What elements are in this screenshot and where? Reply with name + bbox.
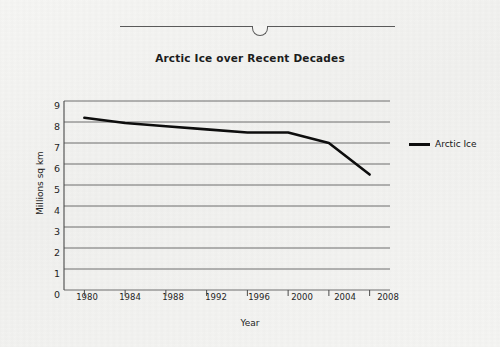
arctic-ice-line-chart: Arctic Ice over Recent Decades Millions …: [0, 0, 500, 347]
chart-legend: Arctic Ice: [409, 139, 477, 149]
plot-area: [0, 0, 500, 347]
x-axis-ticks: [84, 290, 369, 296]
gridlines: [64, 101, 390, 290]
legend-line-swatch: [409, 143, 430, 146]
arctic-ice-data-line: [84, 118, 369, 175]
legend-label: Arctic Ice: [435, 139, 477, 149]
